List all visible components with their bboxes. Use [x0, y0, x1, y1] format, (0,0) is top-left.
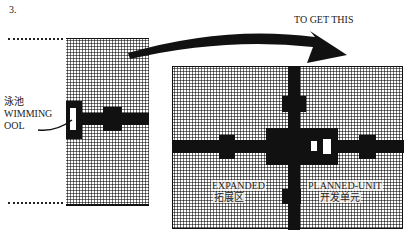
window-1	[311, 141, 317, 151]
top-guide-line	[8, 38, 63, 40]
right-site-plan	[172, 66, 403, 229]
pool-leader-line	[36, 118, 76, 138]
expanded-label-en: EXPANDED	[211, 180, 266, 191]
expanded-label-cn: 拓展区	[213, 192, 245, 203]
west-block	[219, 135, 235, 159]
figure-number: 3.	[9, 4, 17, 15]
planned-unit-label-en: PLANNED-UNIT	[307, 180, 383, 191]
east-block	[359, 135, 376, 159]
pool-label-en-2: OOL	[4, 120, 25, 131]
caption: TO GET THIS	[294, 14, 353, 25]
planned-unit-label-cn: 开发单元	[319, 192, 361, 203]
pool-label-cn: 泳池	[4, 96, 24, 107]
south-block	[282, 189, 301, 204]
building-block	[103, 107, 122, 131]
north-block	[282, 96, 306, 112]
window-2	[323, 139, 331, 154]
bottom-guide-line	[8, 202, 63, 204]
